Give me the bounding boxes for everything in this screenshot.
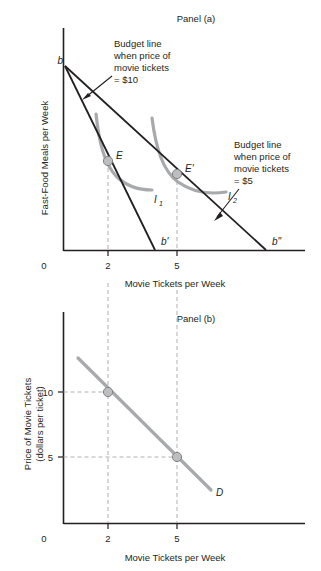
- callout-left-line4: = $10: [114, 74, 138, 85]
- demand-point-5-5: [172, 452, 181, 461]
- callout-left-arrow-shaft: [86, 76, 112, 97]
- callout-right-line2: when price of: [233, 151, 291, 162]
- economics-figure: Panel (a) b E: [0, 0, 321, 571]
- panel-a-x-axis-title: Movie Tickets per Week: [125, 278, 226, 289]
- demand-curve-D: [78, 358, 211, 490]
- panel-b-y-axis-title-line2: (dollars per ticket): [34, 386, 45, 462]
- panel-b-x-axis-title: Movie Tickets per Week: [125, 552, 226, 563]
- panel-a-xtick-label-5: 5: [174, 260, 179, 271]
- callout-right-arrow-head: [214, 212, 223, 221]
- panel-b-xtick-label-5: 5: [174, 533, 179, 544]
- callout-right-line1: Budget line: [234, 139, 282, 150]
- panel-b: Panel (b) D 10: [22, 283, 305, 563]
- panel-b-ytick-label-5: 5: [48, 452, 53, 463]
- label-b-prime: b': [161, 236, 170, 247]
- panel-a-xtick-label-2: 2: [105, 260, 110, 271]
- label-E: E: [116, 150, 123, 161]
- demand-point-2-10: [103, 387, 112, 396]
- label-b-double-prime: b": [272, 236, 282, 247]
- callout-left-line3: movie tickets: [114, 62, 169, 73]
- callout-left-line2: when price of: [113, 50, 171, 61]
- panel-b-title: Panel (b): [177, 313, 216, 324]
- panel-a-origin-label: 0: [41, 260, 46, 271]
- label-I1: I: [154, 194, 157, 205]
- panel-a-y-axis-title: Fast-Food Meals per Week: [39, 101, 50, 216]
- panel-b-y-axis-title-line1: Price of Movie Tickets: [22, 378, 33, 471]
- panel-a: Panel (a) b E: [39, 13, 305, 289]
- callout-right-line3: movie tickets: [234, 163, 289, 174]
- panel-a-title: Panel (a): [177, 13, 216, 24]
- label-I1-subscript: 1: [159, 200, 163, 207]
- equilibrium-point-E-prime: [172, 169, 181, 178]
- callout-left-line1: Budget line: [114, 38, 162, 49]
- indifference-curve-I1: [96, 114, 152, 190]
- label-b: b: [57, 55, 63, 66]
- panel-b-xtick-label-2: 2: [105, 533, 110, 544]
- label-D: D: [216, 487, 223, 498]
- label-E-prime: E': [185, 163, 195, 174]
- figure-canvas: Panel (a) b E: [0, 0, 321, 571]
- panel-b-origin-label: 0: [41, 533, 46, 544]
- label-I2-subscript: 2: [232, 197, 237, 204]
- equilibrium-point-E: [103, 156, 112, 165]
- callout-right-line4: = $5: [234, 175, 253, 186]
